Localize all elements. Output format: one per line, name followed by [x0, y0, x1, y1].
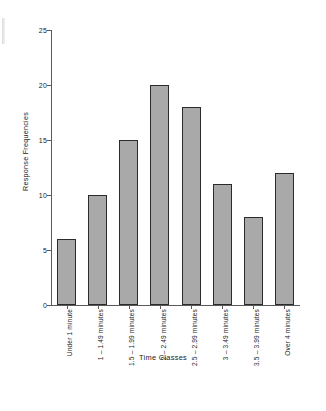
x-axis-line: [51, 305, 300, 306]
x-tick-label: Under 1 minute: [66, 309, 73, 356]
y-tick-mark: [47, 195, 51, 196]
y-tick-label: 20: [39, 82, 47, 89]
y-tick-mark: [47, 85, 51, 86]
plot-area: 0510152025 Under 1 minute1 – 1.49 minute…: [51, 30, 300, 305]
y-tick-mark: [47, 30, 51, 31]
x-axis-title: Time Classes: [0, 353, 326, 362]
x-tick-label: Over 4 minutes: [284, 309, 291, 356]
y-tick-label: 10: [39, 192, 47, 199]
y-tick-mark: [47, 305, 51, 306]
y-axis-line: [51, 30, 52, 305]
y-tick-label: 5: [43, 247, 47, 254]
bar: [150, 85, 169, 305]
y-axis-title: Response Frequencies: [21, 112, 30, 191]
bar: [244, 217, 263, 305]
bar: [182, 107, 201, 305]
page-edge-artifact: [2, 18, 5, 44]
bar: [88, 195, 107, 305]
bar: [275, 173, 294, 305]
y-tick-mark: [47, 250, 51, 251]
bar: [57, 239, 76, 305]
y-tick-label: 25: [39, 27, 47, 34]
y-tick-label: 15: [39, 137, 47, 144]
y-tick-mark: [47, 140, 51, 141]
bar: [213, 184, 232, 305]
y-tick-label: 0: [43, 302, 47, 309]
bar: [119, 140, 138, 305]
bar-chart-figure: 0510152025 Under 1 minute1 – 1.49 minute…: [0, 0, 326, 411]
